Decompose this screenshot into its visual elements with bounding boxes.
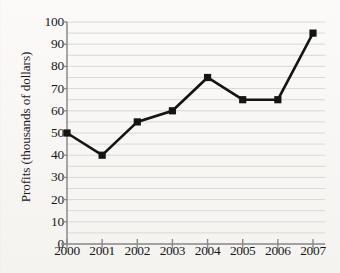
data-point-marker [99, 152, 106, 159]
gridlines [67, 22, 325, 244]
x-axis-tick-label: 2007 [291, 243, 335, 259]
line-chart: Profits (thousands of dollars) 010203040… [0, 0, 340, 273]
data-point-marker [204, 74, 211, 81]
axis-ticks [62, 22, 313, 249]
data-point-marker [63, 129, 70, 136]
data-point-marker [274, 96, 281, 103]
data-point-marker [169, 107, 176, 114]
data-point-marker [134, 118, 141, 125]
data-point-marker [239, 96, 246, 103]
data-line [67, 33, 313, 155]
data-point-marker [309, 30, 316, 37]
x-axis-tick-labels: 20002001200220032004200520062007 [0, 243, 340, 265]
plot-area [0, 0, 340, 273]
